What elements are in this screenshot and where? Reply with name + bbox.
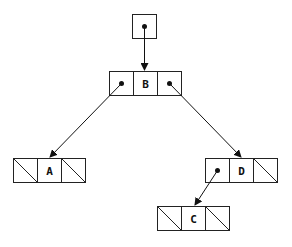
node-label-a: A (46, 165, 53, 178)
root-pointer (133, 15, 157, 71)
node-b: B (110, 72, 182, 96)
node-d: D (206, 159, 278, 183)
edge-b-d (170, 84, 242, 158)
node-label-d: D (238, 165, 245, 178)
node-label-b: B (142, 78, 149, 91)
node-a: A (14, 159, 86, 183)
edge-b-a (50, 84, 122, 158)
node-label-c: C (190, 213, 197, 226)
node-c: C (158, 207, 230, 231)
tree-diagram: B A D C (0, 0, 292, 247)
